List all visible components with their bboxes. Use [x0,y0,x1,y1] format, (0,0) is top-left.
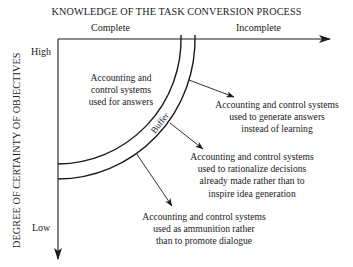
arrow-to-outcome-1 [189,80,234,97]
outcome-3-text: Accounting and control systems used as a… [135,211,273,248]
outcome-1-text: Accounting and control systems used to g… [208,99,346,136]
arrow-to-outcome-3 [136,153,172,206]
inner-region-text: Accounting and control systems used for … [76,72,166,109]
outcome-2-text: Accounting and control systems used to r… [183,151,321,200]
arrow-to-outcome-2 [170,123,203,149]
